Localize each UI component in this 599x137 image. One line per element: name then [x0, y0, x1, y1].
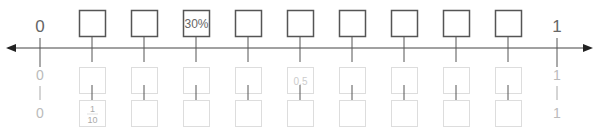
row-top-box[interactable]	[236, 11, 262, 37]
row-bottom-box[interactable]	[496, 101, 522, 127]
number-line-diagram: 0130%010.501110	[0, 0, 599, 137]
row-top-box[interactable]	[288, 11, 314, 37]
row-middle-box-value: 0.5	[294, 76, 308, 87]
row-top-box[interactable]	[496, 11, 522, 37]
row-top-box[interactable]	[444, 11, 470, 37]
right-arrow-icon	[583, 44, 593, 52]
row-middle-end-label: 1	[553, 67, 561, 83]
row-bottom-box[interactable]	[132, 101, 158, 127]
row-bottom-start-label: 0	[36, 105, 44, 121]
row-bottom-box[interactable]	[444, 101, 470, 127]
fraction-numerator: 1	[90, 104, 95, 114]
fraction-denominator: 10	[87, 115, 97, 125]
row-bottom-box[interactable]	[340, 101, 366, 127]
row-bottom-box[interactable]	[236, 101, 262, 127]
row-top-box[interactable]	[340, 11, 366, 37]
row-top-start-label: 0	[35, 17, 44, 36]
row-top-box[interactable]	[392, 11, 418, 37]
row-bottom-box[interactable]	[392, 101, 418, 127]
row-bottom-end-label: 1	[553, 105, 561, 121]
row-bottom-box[interactable]	[184, 101, 210, 127]
row-top-end-label: 1	[552, 17, 561, 36]
row-top-box-value: 30%	[184, 17, 208, 31]
left-arrow-icon	[6, 44, 16, 52]
row-top-box[interactable]	[80, 11, 106, 37]
row-bottom-box[interactable]	[288, 101, 314, 127]
row-top-box[interactable]	[132, 11, 158, 37]
row-middle-start-label: 0	[36, 67, 44, 83]
